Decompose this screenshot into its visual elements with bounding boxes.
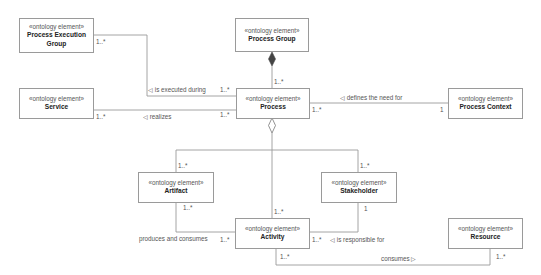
stereotype-label: «ontology element» — [245, 27, 300, 35]
stereotype-label: «ontology element» — [29, 95, 84, 103]
stereotype-label: «ontology element» — [29, 23, 84, 31]
mult-service: 1..* — [96, 113, 105, 121]
element-process[interactable]: «ontology element» Process — [236, 88, 310, 119]
mult-process-realizes: 1..* — [220, 111, 229, 119]
element-name: Stakeholder — [340, 187, 378, 196]
label-defines-the-need-for: ◁ defines the need for — [340, 94, 402, 102]
label-is-executed-during: ◁ is executed during — [148, 86, 206, 94]
mult-activity-left: 1..* — [220, 236, 229, 244]
stereotype-label: «ontology element» — [149, 179, 204, 187]
element-activity[interactable]: «ontology element» Activity — [235, 218, 310, 249]
mult-activity-right: 1..* — [312, 236, 321, 244]
mult-activity-top: 1..* — [274, 208, 283, 216]
stereotype-label: «ontology element» — [245, 225, 300, 233]
mult-peg: 1..* — [96, 38, 105, 46]
mult-process-defines: 1..* — [312, 106, 321, 114]
label-consumes: consumes ▷ — [381, 255, 416, 263]
mult-artifact-bottom: 1..* — [183, 204, 192, 212]
aggregation-diamond-icon — [269, 118, 276, 133]
label-is-responsible-for: ◁ is responsible for — [330, 236, 384, 244]
element-name: Resource — [470, 233, 500, 242]
label-produces-and-consumes: produces and consumes — [139, 235, 208, 243]
mult-resource: 1..* — [496, 253, 505, 261]
element-artifact[interactable]: «ontology element» Artifact — [138, 172, 214, 203]
mult-stakeholder-bottom: 1 — [364, 205, 368, 213]
element-name: Service — [45, 103, 68, 112]
mult-process-in-group: 1..* — [274, 78, 283, 86]
stereotype-label: «ontology element» — [332, 179, 387, 187]
element-process-group[interactable]: «ontology element» Process Group — [235, 18, 309, 52]
mult-activity-bottom: 1..* — [280, 253, 289, 261]
element-name: Process Execution — [27, 31, 86, 40]
edge-is-responsible-for — [309, 202, 358, 232]
element-name: Process Context — [459, 103, 511, 112]
stereotype-label: «ontology element» — [458, 95, 513, 103]
element-name: Artifact — [164, 187, 187, 196]
element-name: Process Group — [248, 35, 295, 44]
composition-diamond-icon — [269, 52, 276, 66]
mult-stakeholder-top: 1..* — [360, 162, 369, 170]
element-name: Activity — [261, 233, 285, 242]
stereotype-label: «ontology element» — [458, 225, 513, 233]
element-process-context[interactable]: «ontology element» Process Context — [448, 88, 523, 119]
element-name: Process — [260, 103, 286, 112]
mult-process-executed: 1..* — [220, 86, 229, 94]
element-stakeholder[interactable]: «ontology element» Stakeholder — [321, 172, 397, 203]
element-resource[interactable]: «ontology element» Resource — [448, 218, 523, 249]
mult-artifact-top: 1..* — [178, 162, 187, 170]
element-process-execution-group[interactable]: «ontology element» Process Execution Gro… — [19, 18, 94, 53]
element-name-line2: Group — [47, 40, 67, 49]
element-service[interactable]: «ontology element» Service — [19, 88, 94, 119]
stereotype-label: «ontology element» — [246, 95, 301, 103]
label-realizes: ◁ realizes — [143, 113, 171, 121]
mult-process-context: 1 — [440, 106, 444, 114]
edge-process-aggregation-bar — [176, 150, 358, 172]
